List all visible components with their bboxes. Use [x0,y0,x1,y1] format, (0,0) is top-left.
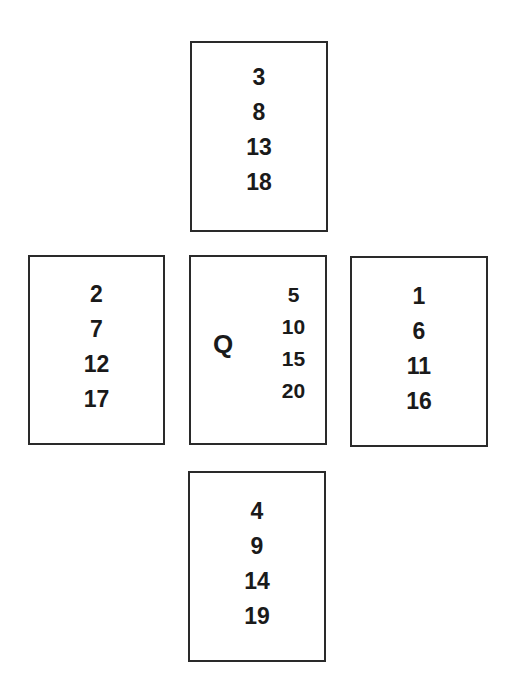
card-center-queen: Q 5 10 15 20 [189,255,327,445]
card-right-numbers: 1 6 11 16 [352,279,486,419]
number: 14 [244,564,270,599]
number: 3 [253,60,266,95]
card-top-numbers: 3 8 13 18 [192,60,326,200]
queen-label: Q [213,329,233,359]
card-top: 3 8 13 18 [190,41,328,232]
number: 7 [90,312,103,347]
number: 1 [413,279,426,314]
number: 4 [251,494,264,529]
number: 16 [406,384,432,419]
number: 10 [282,311,305,343]
number: 13 [246,130,272,165]
number: 19 [244,599,270,634]
number: 18 [246,165,272,200]
number: 12 [84,347,110,382]
card-left: 2 7 12 17 [28,255,165,445]
number: 5 [288,279,300,311]
number: 2 [90,277,103,312]
card-right: 1 6 11 16 [350,256,488,447]
number: 9 [251,529,264,564]
number: 8 [253,95,266,130]
card-left-numbers: 2 7 12 17 [30,277,163,417]
number: 15 [282,343,305,375]
card-bottom-numbers: 4 9 14 19 [190,494,324,634]
card-bottom: 4 9 14 19 [188,471,326,662]
number: 6 [413,314,426,349]
card-center-numbers: 5 10 15 20 [271,279,316,407]
number: 17 [84,382,110,417]
number: 20 [282,375,305,407]
number: 11 [407,349,431,384]
